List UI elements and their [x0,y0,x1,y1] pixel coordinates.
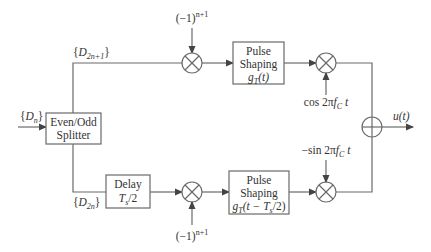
output-label: u(t) [393,110,410,123]
summer [362,117,382,137]
bottom-left-multiplier [182,182,202,202]
input-label: {Dn} [20,110,43,125]
odd-branch-line [73,63,182,113]
pulse-bottom-label-1: Pulse [247,174,272,186]
top-right-multiplier [316,53,336,73]
bottom-right-multiplier [316,182,336,202]
bottom-to-summer-line [336,137,372,192]
bottom-sign-label: (−1)n+1 [176,228,208,243]
pulse-bottom-label-2: Shaping [240,187,278,200]
top-sign-label: (−1)n+1 [176,10,208,25]
splitter-label-1: Even/Odd [50,116,97,128]
qpsk-block-diagram: {Dn} Even/Odd Splitter {D2n+1} (−1)n+1 P… [0,0,431,252]
delay-label-1: Delay [114,178,142,191]
pulse-top-label-1: Pulse [246,45,271,57]
sin-carrier-label: −sin 2πfC t [302,144,352,159]
even-label: {D2n} [73,196,100,211]
cos-carrier-label: cos 2πfC t [304,96,349,111]
splitter-label-2: Splitter [57,129,91,142]
odd-label: {D2n+1} [73,46,110,61]
even-branch-line [73,144,106,192]
top-left-multiplier [182,53,202,73]
pulse-top-label-2: Shaping [240,58,278,71]
